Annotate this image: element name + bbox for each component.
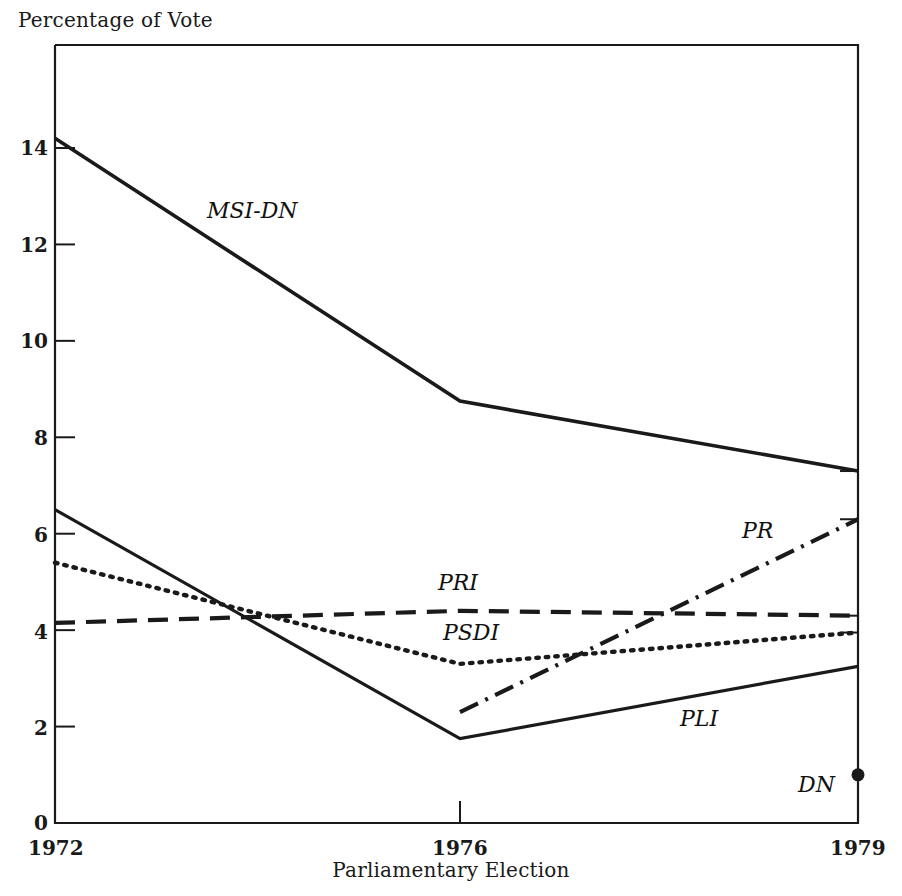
y-tick-label-12: 12 — [8, 233, 48, 257]
y-tick-label-2: 2 — [8, 716, 48, 740]
series-label-pri: PRI — [438, 570, 478, 595]
series-label-msi-dn: MSI-DN — [207, 198, 298, 223]
x-axis-title: Parliamentary Election — [0, 858, 902, 882]
axis-ticks — [55, 148, 858, 823]
series-label-pr: PR — [742, 518, 773, 543]
plot-area — [0, 0, 902, 896]
y-tick-label-14: 14 — [8, 136, 48, 160]
x-tick-label-1972: 1972 — [28, 836, 84, 860]
axis-frame — [55, 45, 858, 823]
chart-figure: Percentage of Vote Parliamentary Electio… — [0, 0, 902, 896]
y-tick-label-4: 4 — [8, 620, 48, 644]
series-label-pli: PLI — [680, 706, 718, 731]
series-label-dn: DN — [798, 772, 835, 797]
y-tick-label-8: 8 — [8, 426, 48, 450]
y-tick-label-0: 0 — [8, 811, 48, 835]
series-label-psdi: PSDI — [443, 620, 499, 645]
y-tick-label-6: 6 — [8, 523, 48, 547]
y-tick-label-10: 10 — [8, 329, 48, 353]
y-axis-title: Percentage of Vote — [18, 8, 213, 32]
x-tick-label-1976: 1976 — [432, 836, 488, 860]
x-tick-label-1979: 1979 — [830, 836, 886, 860]
data-series-group — [55, 138, 865, 781]
